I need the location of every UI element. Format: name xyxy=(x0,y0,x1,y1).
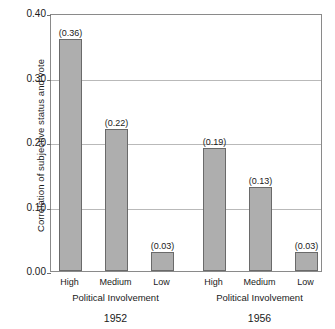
y-axis-tick-mark xyxy=(47,273,51,274)
x-axis-title: Political Involvement xyxy=(46,293,186,303)
bar[interactable] xyxy=(151,252,174,271)
gridline xyxy=(51,209,321,210)
y-axis-tick-mark xyxy=(47,15,51,16)
x-axis-category-label: Medium xyxy=(93,278,138,287)
bar[interactable] xyxy=(249,187,272,271)
gridline xyxy=(51,144,321,145)
x-axis-category-label: Low xyxy=(139,278,184,287)
x-axis-category-label: Low xyxy=(283,278,328,287)
y-axis-tick-label: 0.00 xyxy=(16,267,46,277)
bar-value-label: (0.36) xyxy=(50,29,91,38)
bar[interactable] xyxy=(105,129,128,271)
bar-value-label: (0.03) xyxy=(286,242,327,251)
x-axis-title: Political Involvement xyxy=(190,293,330,303)
y-axis-tick-labels: 0.400.300.200.100.00 xyxy=(14,0,46,329)
bar-value-label: (0.19) xyxy=(194,138,235,147)
bar-value-label: (0.03) xyxy=(142,242,183,251)
gridline xyxy=(51,80,321,81)
x-axis-category-label: Medium xyxy=(237,278,282,287)
bar-value-label: (0.22) xyxy=(96,119,137,128)
bar[interactable] xyxy=(59,39,82,271)
group-year-label: 1956 xyxy=(220,313,300,324)
bar[interactable] xyxy=(295,252,318,271)
y-axis-tick-label: 0.30 xyxy=(16,74,46,84)
bar-chart: Correlation of subjective status and vot… xyxy=(0,0,335,329)
x-axis-category-label: High xyxy=(191,278,236,287)
bar[interactable] xyxy=(203,148,226,271)
y-axis-tick-label: 0.10 xyxy=(16,203,46,213)
y-axis-tick-label: 0.40 xyxy=(16,9,46,19)
bar-value-label: (0.13) xyxy=(240,177,281,186)
x-axis-category-label: High xyxy=(47,278,92,287)
plot-area: (0.36)(0.22)(0.03)(0.19)(0.13)(0.03) xyxy=(50,14,322,272)
group-year-label: 1952 xyxy=(76,313,156,324)
y-axis-tick-label: 0.20 xyxy=(16,138,46,148)
